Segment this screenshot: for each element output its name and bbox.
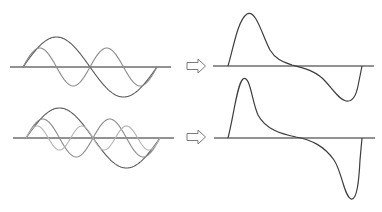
composite-waveform — [228, 78, 362, 199]
row-three-harmonics-result — [214, 78, 375, 199]
row-two-harmonics-result — [213, 13, 374, 101]
top-arrow-icon — [187, 59, 206, 73]
row-three-harmonics-components — [13, 108, 174, 168]
bottom-arrow-icon — [187, 130, 206, 144]
composite-waveform — [228, 13, 362, 101]
harmonic-superposition-diagram — [0, 0, 382, 212]
row-two-harmonics-components — [10, 37, 171, 97]
